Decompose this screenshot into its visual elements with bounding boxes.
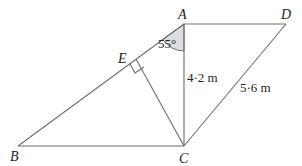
- label-c: C: [179, 151, 189, 166]
- geometry-diagram: A D B C E 55° 4·2 m 5·6 m: [0, 0, 302, 166]
- segment-ec: [136, 59, 184, 146]
- angle-label: 55°: [158, 36, 176, 51]
- label-d: D: [280, 7, 291, 22]
- label-b: B: [10, 149, 19, 164]
- label-e: E: [117, 51, 127, 66]
- label-a: A: [177, 7, 187, 22]
- right-angle-marker: [130, 64, 144, 73]
- length-ac-label: 4·2 m: [187, 70, 218, 85]
- length-cd-label: 5·6 m: [240, 80, 271, 95]
